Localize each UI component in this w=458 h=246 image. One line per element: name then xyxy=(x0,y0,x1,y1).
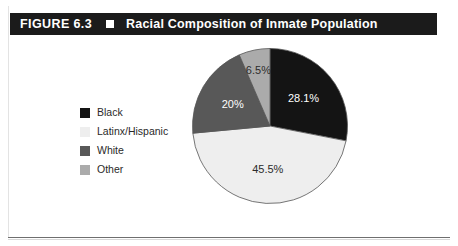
legend-item-black: Black xyxy=(80,104,184,121)
legend-label-latinx-hispanic: Latinx/Hispanic xyxy=(97,126,168,137)
legend-item-white: White xyxy=(80,142,184,159)
legend-swatch-white xyxy=(80,146,90,156)
pie-chart: 28.1%45.5%20%6.5% xyxy=(190,46,350,206)
chart-legend: Black Latinx/Hispanic White Other xyxy=(80,104,184,180)
legend-label-black: Black xyxy=(97,107,123,118)
left-page-rule xyxy=(8,6,9,238)
legend-label-white: White xyxy=(97,145,124,156)
legend-item-latinx-hispanic: Latinx/Hispanic xyxy=(80,123,184,140)
figure-number: FIGURE 6.3 xyxy=(20,17,92,31)
pie-label-latinx-hispanic: 45.5% xyxy=(252,163,283,175)
black-square-icon xyxy=(106,20,114,28)
figure-frame: FIGURE 6.3 Racial Composition of Inmate … xyxy=(0,0,458,246)
figure-title: Racial Composition of Inmate Population xyxy=(126,17,378,31)
bottom-page-rule-shadow xyxy=(8,239,450,240)
legend-label-other: Other xyxy=(97,164,123,175)
legend-swatch-other xyxy=(80,165,90,175)
legend-swatch-black xyxy=(80,108,90,118)
pie-label-white: 20% xyxy=(222,98,244,110)
bottom-page-rule xyxy=(8,237,450,238)
pie-label-other: 6.5% xyxy=(246,64,271,76)
legend-swatch-latinx-hispanic xyxy=(80,127,90,137)
pie-label-black: 28.1% xyxy=(288,92,319,104)
legend-item-other: Other xyxy=(80,161,184,178)
pie-chart-svg: 28.1%45.5%20%6.5% xyxy=(190,46,350,206)
figure-title-bar: FIGURE 6.3 Racial Composition of Inmate … xyxy=(10,13,437,35)
